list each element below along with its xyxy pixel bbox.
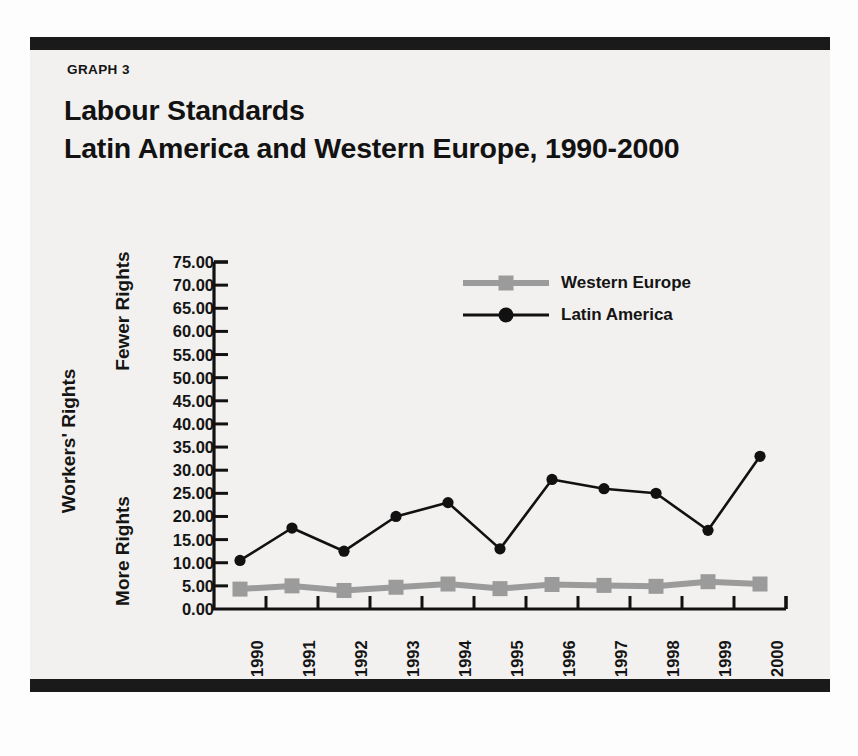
data-point-marker	[390, 511, 401, 522]
data-point-marker	[649, 579, 664, 594]
plot-area: Workers' Rights Fewer Rights More Rights…	[0, 0, 858, 756]
data-point-marker	[234, 555, 245, 566]
data-point-marker	[286, 522, 297, 533]
data-point-marker	[597, 578, 612, 593]
legend-label-latin-america: Latin America	[561, 305, 673, 325]
legend-label-western-europe: Western Europe	[561, 273, 691, 293]
data-point-marker	[285, 578, 300, 593]
data-point-marker	[598, 483, 609, 494]
data-point-marker	[441, 577, 456, 592]
data-point-marker	[494, 543, 505, 554]
data-point-marker	[442, 497, 453, 508]
chart-canvas	[0, 0, 858, 756]
legend-swatch-circle-icon	[463, 304, 549, 326]
data-point-marker	[753, 577, 768, 592]
legend-item-western-europe[interactable]: Western Europe	[463, 270, 691, 296]
data-point-marker	[702, 525, 713, 536]
data-point-marker	[337, 583, 352, 598]
data-point-marker	[650, 488, 661, 499]
data-point-marker	[389, 580, 404, 595]
legend-item-latin-america[interactable]: Latin America	[463, 302, 691, 328]
data-point-marker	[754, 451, 765, 462]
data-point-marker	[701, 574, 716, 589]
data-point-marker	[493, 581, 508, 596]
data-point-marker	[545, 577, 560, 592]
data-point-marker	[546, 474, 557, 485]
data-point-marker	[233, 582, 248, 597]
data-point-marker	[338, 546, 349, 557]
page-background: GRAPH 3 Labour Standards Latin America a…	[0, 0, 858, 756]
chart-legend: Western Europe Latin America	[463, 270, 691, 334]
legend-swatch-square-icon	[463, 272, 549, 294]
